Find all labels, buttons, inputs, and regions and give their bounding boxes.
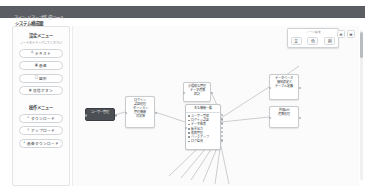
node-port-left[interactable] bbox=[269, 87, 271, 89]
node-port-right[interactable] bbox=[221, 122, 223, 124]
zoom-in-button[interactable]: ⊕ bbox=[337, 30, 345, 38]
node-right-upper[interactable]: データベース 接続設定と テーブル定義 bbox=[269, 74, 299, 100]
sidebar-button-label: 図形 bbox=[39, 76, 47, 81]
node-port-right[interactable] bbox=[115, 114, 117, 116]
menu-button[interactable]: ≡ bbox=[347, 30, 355, 38]
sidebar-button-download[interactable]: ↓ダウンロード bbox=[19, 114, 63, 123]
app-header-bar: マインドマップ作成ツール bbox=[0, 6, 365, 18]
node-label: ログイン 認証処理 セッション 管理機能 の実装 bbox=[126, 97, 154, 119]
node-label: 小規模な管理 データ連携 設計 bbox=[184, 83, 210, 97]
app-window: マインドマップ作成ツール システム構成図 設定メニューノードをドラッグしてくださ… bbox=[0, 0, 365, 190]
image-download-icon: ↓ bbox=[23, 141, 26, 144]
list-item[interactable]: ログ監視 bbox=[188, 139, 218, 143]
sidebar-section-title: 設定メニュー bbox=[13, 32, 69, 38]
canvas-controls: ⊕≡ bbox=[337, 30, 355, 38]
node-toolbar: ノード設定 文色削 bbox=[287, 28, 339, 48]
text-style-icon: 文 bbox=[294, 38, 298, 44]
color-button[interactable]: 色 bbox=[307, 37, 318, 45]
text-icon: A bbox=[31, 51, 33, 54]
vertical-scrollbar[interactable] bbox=[360, 30, 363, 180]
node-label: ユーザー管理 bbox=[86, 109, 114, 115]
node-right-lower[interactable]: 外部API 連携処理 bbox=[269, 106, 299, 128]
node-list-header: 主な機能一覧 bbox=[186, 105, 220, 113]
sidebar-button-button[interactable]: ◉送信ボタン bbox=[19, 86, 63, 95]
sidebar-button-label: 送信ボタン bbox=[33, 88, 53, 93]
vertical-scrollbar-thumb[interactable] bbox=[360, 32, 363, 58]
node-label: 外部API 連携処理 bbox=[270, 107, 298, 117]
image-icon: ▣ bbox=[35, 64, 38, 67]
node-port-left[interactable] bbox=[85, 114, 87, 116]
sidebar-button-label: 画像ダウンロード bbox=[27, 141, 59, 146]
shape-icon: □ bbox=[35, 76, 38, 79]
zoom-in-icon: ⊕ bbox=[339, 32, 342, 37]
node-toolbar-label: ノード設定 bbox=[288, 30, 338, 34]
node-list-items: ユーザー登録ログイン認証データ検索帳票出力権限管理バックアップログ監視 bbox=[186, 113, 220, 145]
node-port-left[interactable] bbox=[269, 117, 271, 119]
node-selected[interactable]: ユーザー管理 bbox=[85, 108, 115, 121]
sidebar-button-image[interactable]: ▣画像 bbox=[19, 61, 63, 70]
sidebar-section-title: 操作メニュー bbox=[13, 104, 69, 110]
sidebar-button-text[interactable]: Aテキスト bbox=[19, 49, 63, 58]
sidebar-button-label: テキスト bbox=[35, 51, 51, 56]
sidebar-panel: 設定メニューノードをドラッグしてくださいAテキスト▣画像□図形◉送信ボタン操作メ… bbox=[12, 26, 70, 186]
sidebar-button-shape[interactable]: □図形 bbox=[19, 74, 63, 83]
sidebar-button-label: アップロード bbox=[31, 128, 55, 133]
delete-icon: 削 bbox=[328, 38, 332, 44]
delete-button[interactable]: 削 bbox=[324, 37, 335, 45]
sidebar-section-note: ノードをドラッグしてください bbox=[13, 40, 69, 45]
node-label: データベース 接続設定と テーブル定義 bbox=[270, 75, 298, 89]
color-icon: 色 bbox=[311, 38, 315, 44]
sidebar-button-upload[interactable]: ↑アップロード bbox=[19, 126, 63, 135]
mindmap-canvas[interactable]: ユーザー管理ログイン 認証処理 セッション 管理機能 の実装小規模な管理 データ… bbox=[72, 26, 359, 186]
node-port-right[interactable] bbox=[221, 139, 223, 141]
node-auth[interactable]: ログイン 認証処理 セッション 管理機能 の実装 bbox=[125, 96, 155, 128]
node-port-right[interactable] bbox=[221, 118, 223, 120]
node-feature-list[interactable]: 主な機能一覧ユーザー登録ログイン認証データ検索帳票出力権限管理バックアップログ監… bbox=[185, 104, 221, 150]
node-top-center[interactable]: 小規模な管理 データ連携 設計 bbox=[183, 82, 211, 102]
sidebar-button-label: ダウンロード bbox=[31, 116, 55, 121]
download-icon: ↓ bbox=[27, 116, 30, 119]
sidebar-button-label: 画像 bbox=[39, 63, 47, 68]
text-style-button[interactable]: 文 bbox=[291, 37, 302, 45]
button-icon: ◉ bbox=[29, 89, 32, 92]
upload-icon: ↑ bbox=[27, 129, 30, 132]
sidebar-button-image-download[interactable]: ↓画像ダウンロード bbox=[19, 139, 63, 148]
menu-icon: ≡ bbox=[349, 32, 352, 37]
